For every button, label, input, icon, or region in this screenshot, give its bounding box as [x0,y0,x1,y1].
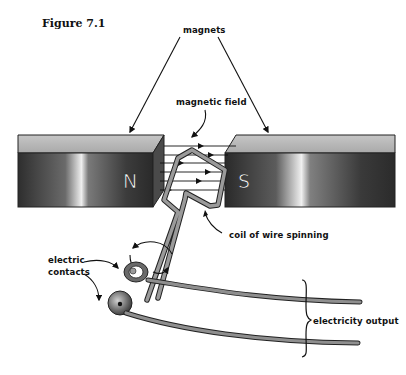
label-output: electricity output [313,315,399,326]
arrow-to-field [192,110,206,137]
north-magnet: N [18,135,164,207]
label-magnetic-field: magnetic field [176,96,247,107]
south-pole-label: S [238,170,250,192]
label-magnets: magnets [183,24,226,35]
arrow-to-south-magnet [218,37,268,132]
generator-diagram: Figure 7.1 magnets magnetic field N S [0,0,406,375]
arrow-to-disc [84,274,99,300]
arrow-to-coil [205,213,222,233]
label-coil: coil of wire spinning [229,229,329,240]
label-contacts-line2: contacts [48,266,90,277]
arrow-to-north-magnet [130,37,180,132]
slip-ring-contact [124,262,148,282]
figure-title: Figure 7.1 [42,17,105,30]
coil-arrow-head [203,210,208,217]
output-brace [302,280,311,357]
north-pole-label: N [123,170,137,192]
label-contacts-line1: electric [48,254,85,265]
south-magnet: S [225,135,395,207]
